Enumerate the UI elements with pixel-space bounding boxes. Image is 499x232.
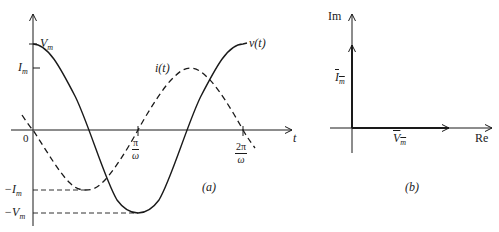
caption-b: (b)	[405, 181, 419, 193]
caption-a: (a)	[202, 181, 216, 193]
label-neg-vm: −Vm	[4, 206, 25, 221]
label-i-of-t: i(t)	[155, 62, 170, 74]
label-pi-over-omega: πω	[132, 138, 139, 161]
label-vm: Vm	[40, 37, 53, 52]
current-curve	[22, 68, 255, 190]
label-origin: 0	[23, 133, 29, 144]
label-time-axis: t	[293, 132, 296, 144]
label-neg-im: −Im	[4, 183, 22, 198]
label-2pi-over-omega: 2πω	[235, 142, 247, 165]
figure-b	[330, 14, 492, 153]
label-imag-axis: Im	[328, 10, 341, 22]
label-im: Im	[18, 61, 28, 76]
label-phasor-vm: Vm	[393, 132, 406, 147]
label-real-axis: Re	[475, 132, 488, 144]
label-phasor-im: Im	[335, 71, 345, 86]
label-v-of-t: v(t)	[249, 37, 266, 49]
diagram-canvas	[0, 0, 499, 232]
